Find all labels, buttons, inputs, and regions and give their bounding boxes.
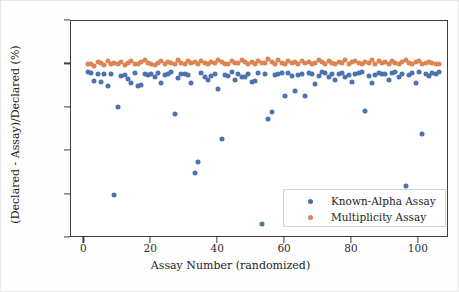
chart-legend[interactable]: Known-Alpha Assay Multiplicity Assay [283,189,446,227]
data-point [360,70,365,75]
x-tick-label: 0 [61,242,105,254]
data-point [102,63,107,68]
data-point [413,81,418,86]
data-point [416,70,421,75]
data-point [216,86,221,91]
data-point [172,112,177,117]
data-point [299,71,304,76]
legend-marker-icon-1 [289,215,331,220]
figure-canvas: -400-300-200-1000100020406080100 (Declar… [0,0,459,292]
x-tick-label: 20 [128,242,172,254]
data-point [256,71,261,76]
data-point [309,72,314,77]
data-point [89,70,94,75]
data-point [263,71,268,76]
data-point [219,137,224,142]
data-point [349,79,354,84]
x-tick-label: 100 [396,242,440,254]
data-point [289,73,294,78]
data-point [420,131,425,136]
y-tick-mark [64,63,70,64]
data-point [400,71,405,76]
data-point [383,72,388,77]
data-point [293,89,298,94]
y-axis-label: (Declared - Assay)/Declared (%) [9,20,22,250]
data-point [192,170,197,175]
y-tick-mark [64,236,70,237]
data-point [259,222,264,227]
x-axis-label: Assay Number (randomized) [1,259,459,272]
y-tick-mark [64,19,70,20]
data-point [212,71,217,76]
data-point [159,81,164,86]
data-point [333,78,338,83]
data-point [139,83,144,88]
legend-label-1: Multiplicity Assay [331,211,426,223]
legend-item-multiplicity-assay[interactable]: Multiplicity Assay [289,209,440,225]
y-tick-mark [64,193,70,194]
data-point [386,77,391,82]
data-point [329,71,334,76]
data-point [115,104,120,109]
data-point [169,70,174,75]
data-point [186,73,191,78]
data-point [129,81,134,86]
data-point [99,80,104,85]
x-tick-label: 80 [329,242,373,254]
data-point [363,109,368,114]
data-point [410,71,415,76]
data-point [436,69,441,74]
data-point [246,72,251,77]
data-point [436,61,441,66]
data-point [109,71,114,76]
x-tick-label: 60 [262,242,306,254]
data-point [252,78,257,83]
y-tick-mark [64,150,70,151]
data-point [196,160,201,165]
legend-marker-icon-0 [289,199,331,204]
data-point [370,80,375,85]
data-point [155,70,160,75]
data-point [232,78,237,83]
data-point [269,110,274,115]
data-point [105,83,110,88]
data-point [92,79,97,84]
data-point [189,80,194,85]
data-point [229,70,234,75]
legend-label-0: Known-Alpha Assay [331,195,436,207]
data-point [303,93,308,98]
data-point [346,72,351,77]
legend-item-known-alpha-assay[interactable]: Known-Alpha Assay [289,193,440,209]
data-point [366,73,371,78]
data-point [283,94,288,99]
data-point [403,183,408,188]
data-point [266,116,271,121]
data-point [95,71,100,76]
data-point [132,71,137,76]
y-tick-mark [64,106,70,107]
x-tick-label: 40 [195,242,239,254]
data-point [112,192,117,197]
data-point [279,70,284,75]
data-point [313,81,318,86]
data-point [102,71,107,76]
